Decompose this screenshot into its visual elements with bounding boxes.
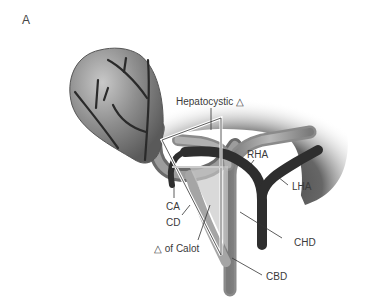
diagram-canvas	[0, 0, 367, 299]
label-cbd: CBD	[266, 272, 287, 282]
label-hepatocystic-triangle: Hepatocystic △	[176, 97, 244, 107]
label-ca: CA	[166, 202, 180, 212]
label-lha: LHA	[292, 182, 311, 192]
label-cd: CD	[166, 218, 180, 228]
label-triangle-of-calot: △ of Calot	[154, 244, 199, 254]
label-rha: RHA	[247, 150, 268, 160]
anatomy-figure: A Hepatocystic △ RHA LHA CA CD △ of Calo…	[0, 0, 367, 299]
panel-label: A	[22, 14, 30, 26]
label-chd: CHD	[294, 238, 316, 248]
